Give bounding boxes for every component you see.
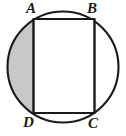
vertex-label-a: A	[26, 1, 36, 16]
shaded-left-segment	[8, 19, 34, 113]
vertex-label-b: B	[87, 1, 97, 16]
inscribed-rectangle	[34, 19, 95, 113]
vertex-label-d: D	[23, 115, 34, 130]
geometry-figure: A B D C	[0, 0, 126, 136]
figure-canvas	[0, 0, 126, 136]
vertex-label-c: C	[88, 116, 98, 131]
